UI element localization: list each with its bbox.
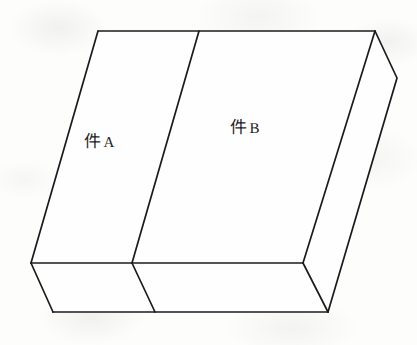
figure-root: 件A 件B — [0, 0, 417, 345]
part-a-label: 件A — [84, 133, 115, 151]
part-b-label: 件B — [230, 119, 260, 137]
part-b-label-letter: B — [248, 121, 261, 137]
part-a-label-letter: A — [102, 135, 115, 151]
part-b-label-cjk: 件 — [230, 118, 248, 138]
front-face — [31, 263, 328, 312]
block-diagram-svg — [0, 0, 417, 345]
part-a-label-cjk: 件 — [84, 132, 102, 152]
